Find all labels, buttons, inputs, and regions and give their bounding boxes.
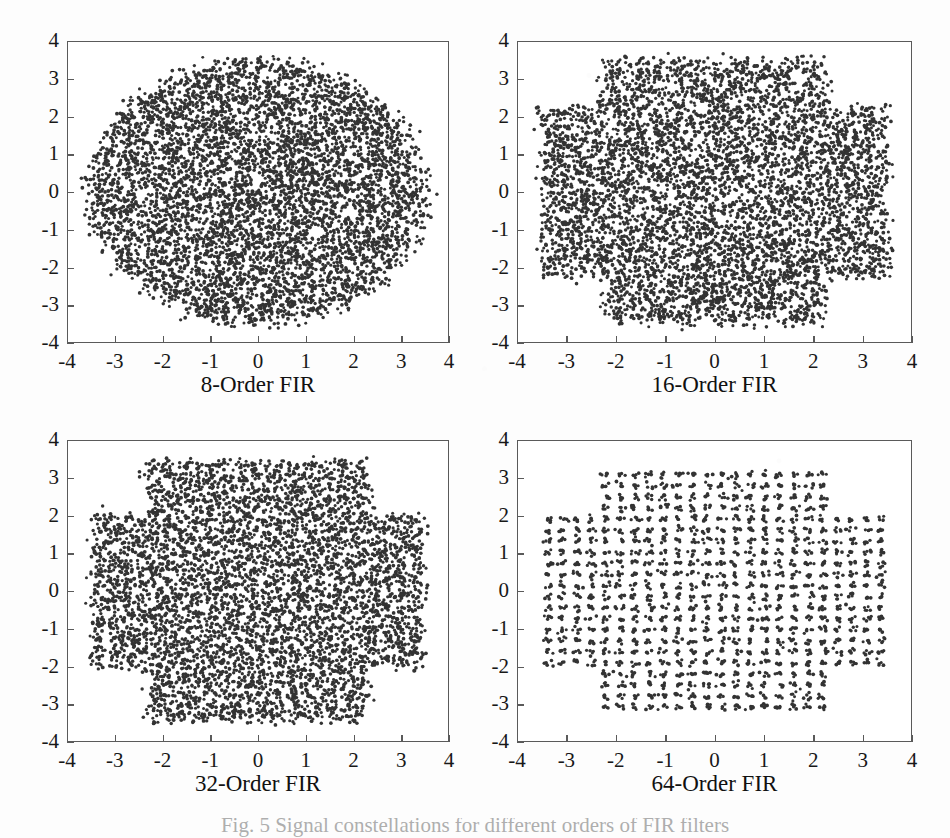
plot-frame-16-order (517, 41, 912, 343)
x-tick-mark (306, 336, 307, 343)
y-tick-mark (67, 516, 74, 517)
x-tick-mark (912, 735, 913, 742)
x-tick-mark (67, 735, 68, 742)
x-tick-label: -3 (90, 351, 140, 372)
figure-root: 43210-1-2-3-4-4-3-2-101234 8-Order FIR 4… (0, 0, 950, 838)
panel-32-order: 43210-1-2-3-4-4-3-2-101234 32-Order FIR (0, 410, 470, 838)
x-tick-mark (401, 735, 402, 742)
x-tick-mark (306, 735, 307, 742)
x-tick-mark (210, 336, 211, 343)
x-tick-label: -1 (640, 351, 690, 372)
y-tick-mark (67, 553, 74, 554)
x-tick-label: -4 (42, 351, 92, 372)
x-tick-label: 3 (838, 351, 888, 372)
y-tick-mark (517, 154, 524, 155)
x-tick-label: 2 (329, 750, 379, 771)
y-tick-mark (517, 305, 524, 306)
y-tick-label: 4 (469, 30, 509, 51)
scatter-plot-64-order (518, 441, 911, 741)
x-tick-label: 0 (690, 351, 740, 372)
x-tick-mark (665, 336, 666, 343)
x-tick-mark (449, 336, 450, 343)
y-tick-label: -2 (469, 656, 509, 677)
y-tick-label: -2 (469, 257, 509, 278)
y-tick-mark (67, 440, 74, 441)
panel-caption-64-order: 64-Order FIR (517, 771, 912, 797)
y-tick-label: -4 (469, 731, 509, 752)
x-tick-label: 3 (376, 750, 426, 771)
x-tick-mark (813, 735, 814, 742)
x-tick-label: 4 (887, 750, 937, 771)
x-tick-label: -4 (42, 750, 92, 771)
x-tick-mark (665, 735, 666, 742)
x-tick-mark (715, 336, 716, 343)
y-tick-mark (67, 591, 74, 592)
plot-frame-8-order (67, 41, 449, 343)
y-tick-label: 2 (19, 505, 59, 526)
panel-64-order: 43210-1-2-3-4-4-3-2-101234 64-Order FIR (470, 410, 950, 838)
y-tick-mark (517, 553, 524, 554)
x-tick-label: 0 (233, 351, 283, 372)
figure-caption-clip: Fig. 5 Signal constellations for differe… (0, 818, 950, 838)
y-tick-label: -3 (469, 294, 509, 315)
y-tick-label: 2 (19, 106, 59, 127)
y-tick-label: -3 (469, 693, 509, 714)
x-tick-mark (67, 336, 68, 343)
panel-8-order: 43210-1-2-3-4-4-3-2-101234 8-Order FIR (0, 0, 470, 410)
y-tick-label: 1 (19, 542, 59, 563)
y-tick-label: 4 (469, 429, 509, 450)
x-tick-label: -2 (138, 750, 188, 771)
y-tick-mark (67, 41, 74, 42)
y-tick-mark (67, 117, 74, 118)
x-tick-mark (813, 336, 814, 343)
y-tick-mark (67, 704, 74, 705)
scatter-plot-16-order (518, 42, 911, 342)
y-tick-mark (67, 305, 74, 306)
x-tick-label: 3 (838, 750, 888, 771)
y-tick-mark (517, 667, 524, 668)
y-tick-mark (517, 440, 524, 441)
x-tick-label: 4 (424, 750, 474, 771)
y-tick-label: 0 (19, 580, 59, 601)
y-tick-mark (67, 79, 74, 80)
x-tick-mark (764, 735, 765, 742)
y-tick-mark (517, 629, 524, 630)
x-tick-mark (715, 735, 716, 742)
y-tick-label: 3 (19, 68, 59, 89)
y-tick-mark (517, 192, 524, 193)
x-tick-label: -4 (492, 750, 542, 771)
panel-caption-16-order: 16-Order FIR (517, 372, 912, 398)
y-tick-mark (517, 268, 524, 269)
panel-caption-8-order: 8-Order FIR (67, 372, 449, 398)
x-tick-mark (566, 735, 567, 742)
x-tick-mark (863, 735, 864, 742)
x-tick-label: 2 (788, 351, 838, 372)
x-tick-label: 3 (376, 351, 426, 372)
x-tick-label: -1 (640, 750, 690, 771)
y-tick-mark (67, 667, 74, 668)
x-tick-mark (354, 735, 355, 742)
y-tick-label: 0 (469, 181, 509, 202)
x-tick-label: 0 (690, 750, 740, 771)
y-tick-label: 2 (469, 106, 509, 127)
y-tick-label: 1 (19, 143, 59, 164)
plot-frame-64-order (517, 440, 912, 742)
x-tick-mark (517, 735, 518, 742)
x-tick-label: -3 (541, 351, 591, 372)
x-tick-mark (517, 336, 518, 343)
x-tick-mark (258, 735, 259, 742)
x-tick-mark (115, 735, 116, 742)
y-tick-mark (67, 629, 74, 630)
x-tick-label: 1 (739, 351, 789, 372)
y-tick-label: 1 (469, 542, 509, 563)
x-tick-label: 1 (281, 351, 331, 372)
x-tick-mark (258, 336, 259, 343)
x-tick-label: 4 (424, 351, 474, 372)
y-tick-label: 1 (469, 143, 509, 164)
x-tick-mark (210, 735, 211, 742)
x-tick-mark (163, 735, 164, 742)
x-tick-label: -3 (90, 750, 140, 771)
y-tick-label: -2 (19, 257, 59, 278)
figure-caption: Fig. 5 Signal constellations for differe… (0, 818, 950, 838)
x-tick-label: 0 (233, 750, 283, 771)
